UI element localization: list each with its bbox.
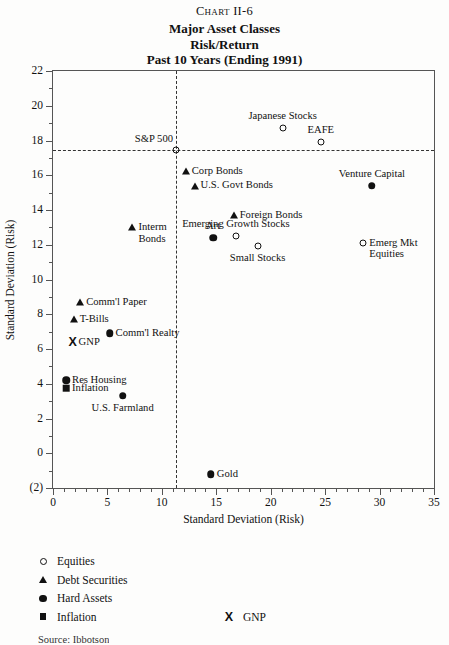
x-axis-tick	[380, 488, 381, 495]
legend: Equities Debt Securities Hard Assets Inf…	[36, 552, 436, 626]
x-axis-minor-tick	[64, 488, 65, 492]
data-point-t-bills[interactable]	[70, 316, 78, 323]
x-axis-minor-tick	[184, 488, 185, 492]
x-axis-minor-tick	[369, 488, 370, 492]
x-axis-minor-tick	[205, 488, 206, 492]
x-axis-tick-label: 0	[50, 497, 56, 509]
chart-title-line-1: Major Asset Classes	[0, 21, 449, 37]
legend-item-hard-assets[interactable]: Hard Assets	[36, 589, 436, 608]
x-axis-minor-tick	[336, 488, 337, 492]
data-label-interm-bonds: Interm Bonds	[138, 221, 166, 244]
data-label-gold: Gold	[217, 468, 238, 479]
data-label-japanese-stocks: Japanese Stocks	[248, 110, 317, 121]
y-axis-tick-label: 16	[32, 170, 44, 182]
y-axis-tick-label: 8	[37, 309, 43, 321]
data-point-gnp[interactable]: X	[68, 336, 76, 349]
data-label-gnp: GNP	[79, 336, 100, 347]
data-point-u-s-farmland[interactable]	[119, 392, 127, 400]
data-point-interm-bonds[interactable]	[128, 224, 136, 231]
x-axis-tick-label: 20	[265, 497, 277, 509]
x-axis-minor-tick	[118, 488, 119, 492]
data-point-res-housing[interactable]	[62, 377, 70, 385]
source-note: Source: Ibbotson	[38, 634, 109, 645]
x-axis-minor-tick	[129, 488, 130, 492]
y-axis-tick	[46, 419, 53, 420]
data-point-u-s-govt-bonds[interactable]	[191, 182, 199, 189]
data-label-corp-bonds: Corp Bonds	[192, 165, 243, 176]
chart-title-line-3: Past 10 Years (Ending 1991)	[0, 52, 449, 68]
data-point-comm-l-paper[interactable]	[76, 299, 84, 306]
x-axis-minor-tick	[358, 488, 359, 492]
data-point-art[interactable]	[209, 234, 217, 242]
legend-item-gnp[interactable]: X GNP	[222, 608, 266, 627]
x-axis-tick-label: 15	[211, 497, 223, 509]
x-axis-tick-label: 25	[319, 497, 331, 509]
legend-item-equities[interactable]: Equities	[36, 552, 436, 571]
chart-number: Chart II-6	[0, 4, 449, 19]
data-point-inflation[interactable]	[63, 385, 70, 392]
data-label-small-stocks: Small Stocks	[230, 252, 286, 263]
y-axis-tick	[46, 453, 53, 454]
data-point-corp-bonds[interactable]	[182, 167, 190, 174]
y-axis-minor-tick	[49, 193, 53, 194]
x-axis-tick	[271, 488, 272, 495]
x-axis-minor-tick	[151, 488, 152, 492]
y-axis-minor-tick	[49, 332, 53, 333]
title-block: Chart II-6 Major Asset Classes Risk/Retu…	[0, 4, 449, 68]
y-axis-tick	[46, 175, 53, 176]
x-axis-tick	[53, 488, 54, 495]
data-point-comm-l-realty[interactable]	[106, 330, 114, 338]
data-point-gold[interactable]	[207, 470, 215, 478]
x-axis-minor-tick	[314, 488, 315, 492]
x-axis-minor-tick	[423, 488, 424, 492]
x-axis-tick	[162, 488, 163, 495]
x-axis-minor-tick	[140, 488, 141, 492]
y-axis-tick	[46, 280, 53, 281]
y-axis-tick-label: 0	[37, 448, 43, 460]
data-point-eafe[interactable]	[317, 139, 324, 146]
y-axis-minor-tick	[49, 262, 53, 263]
y-axis-tick-label: 22	[32, 65, 44, 77]
data-point-small-stocks[interactable]	[254, 243, 261, 250]
x-axis-tick-label: 10	[156, 497, 168, 509]
y-axis-minor-tick	[49, 123, 53, 124]
y-axis-minor-tick	[49, 227, 53, 228]
data-label-emerging-growth-stocks: Emerging Growth Stocks	[182, 218, 290, 229]
y-axis-minor-tick	[49, 436, 53, 437]
data-label-t-bills: T-Bills	[80, 313, 109, 324]
data-label-emerg-mkt-equities: Emerg Mkt Equities	[369, 237, 417, 260]
y-axis-tick-label: 6	[37, 343, 43, 355]
plot-area: (2)024681012141618202205101520253035S&P …	[52, 70, 435, 489]
y-axis-tick-label: 14	[32, 204, 44, 216]
data-point-japanese-stocks[interactable]	[279, 125, 286, 132]
data-point-venture-capital[interactable]	[368, 182, 376, 190]
x-axis-tick	[434, 488, 435, 495]
y-axis-tick	[46, 71, 53, 72]
data-label-comm-l-paper: Comm'l Paper	[86, 296, 146, 307]
y-axis-minor-tick	[49, 158, 53, 159]
x-axis-minor-tick	[75, 488, 76, 492]
triangle-icon	[36, 576, 50, 583]
data-label-u-s-govt-bonds: U.S. Govt Bonds	[201, 179, 273, 190]
y-axis-tick	[46, 349, 53, 350]
x-axis-minor-tick	[390, 488, 391, 492]
data-point-emerg-mkt-equities[interactable]	[360, 240, 367, 247]
square-icon	[36, 613, 50, 620]
data-point-emerging-growth-stocks[interactable]	[232, 233, 239, 240]
y-axis-minor-tick	[49, 471, 53, 472]
y-axis-tick	[46, 245, 53, 246]
x-axis-tick	[216, 488, 217, 495]
x-axis-minor-tick	[173, 488, 174, 492]
y-axis-minor-tick	[49, 401, 53, 402]
legend-label-equities: Equities	[57, 555, 95, 567]
y-axis-tick	[46, 384, 53, 385]
x-axis-minor-tick	[86, 488, 87, 492]
y-axis-tick-label: 10	[32, 274, 44, 286]
legend-item-debt-securities[interactable]: Debt Securities	[36, 571, 436, 590]
x-axis-title: Standard Deviation (Risk)	[52, 513, 435, 525]
y-axis-tick-label: (2)	[30, 482, 43, 494]
data-point-s-p-500[interactable]	[173, 147, 180, 154]
y-axis-tick	[46, 106, 53, 107]
y-axis-tick-label: 12	[32, 239, 44, 251]
y-axis-tick	[46, 210, 53, 211]
